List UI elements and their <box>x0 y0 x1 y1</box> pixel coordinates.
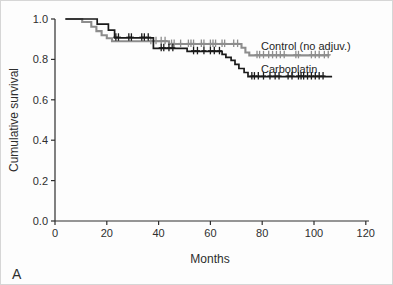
y-tick-label: 0.2 <box>33 175 48 187</box>
y-tick-label: 0.0 <box>33 215 48 227</box>
carboplatin-series-label: Carboplatin <box>261 63 317 75</box>
y-axis-title: Cumulative survival <box>7 68 21 172</box>
y-tick-label: 1.0 <box>33 13 48 25</box>
x-axis-title: Months <box>190 252 229 266</box>
survival-chart: 0204060801001200.00.20.40.60.81.0 Cumula… <box>1 1 393 285</box>
y-tick-label: 0.4 <box>33 134 48 146</box>
x-tick-label: 120 <box>357 227 375 239</box>
km-survival-figure: 0204060801001200.00.20.40.60.81.0 Cumula… <box>0 0 393 285</box>
y-tick-label: 0.6 <box>33 94 48 106</box>
x-tick-label: 40 <box>152 227 164 239</box>
x-tick-label: 20 <box>101 227 113 239</box>
x-tick-label: 80 <box>256 227 268 239</box>
x-tick-label: 60 <box>204 227 216 239</box>
control-series-label: Control (no adjuv.) <box>261 40 351 52</box>
y-tick-label: 0.8 <box>33 53 48 65</box>
panel-letter: A <box>12 266 22 282</box>
x-tick-label: 0 <box>52 227 58 239</box>
x-tick-label: 100 <box>305 227 323 239</box>
